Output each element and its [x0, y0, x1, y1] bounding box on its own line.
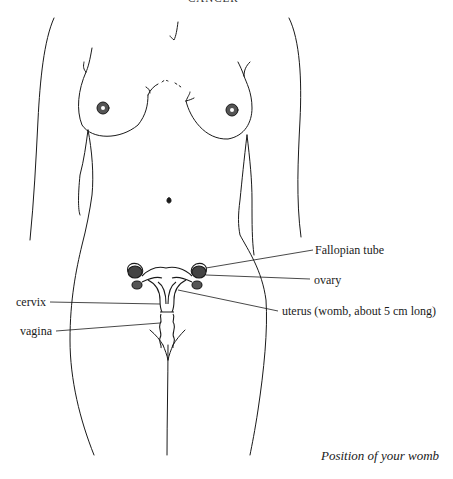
reproductive-organs	[128, 263, 207, 348]
body-outline-figure	[0, 0, 453, 479]
label-fallopian-tube: Fallopian tube	[315, 243, 384, 257]
neck-line	[170, 22, 178, 40]
left-torso-outline	[70, 130, 94, 455]
leader-uterus	[178, 290, 278, 311]
label-cervix: cervix	[16, 295, 46, 309]
leader-cervix	[50, 302, 160, 304]
figure-caption: Position of your womb	[321, 448, 439, 464]
leader-fallopian-tube	[206, 250, 313, 268]
inner-leg-line	[167, 345, 168, 455]
fallopian-tubes	[142, 267, 192, 276]
right-arm-outline	[289, 18, 301, 237]
right-torso-outline	[239, 135, 267, 455]
right-breast-outline	[186, 62, 252, 139]
label-ovary: ovary	[314, 273, 341, 287]
uterus-outline	[148, 280, 186, 312]
leader-vagina	[56, 323, 160, 331]
left-breast-outline	[79, 48, 148, 136]
left-ovary-icon	[128, 266, 142, 278]
navel-mark	[167, 198, 171, 203]
label-vagina: vagina	[20, 324, 52, 338]
leader-ovary	[206, 275, 310, 279]
right-ovary-icon	[192, 266, 206, 278]
left-arm-outline	[30, 18, 54, 240]
label-uterus: uterus (womb, about 5 cm long)	[282, 304, 436, 318]
